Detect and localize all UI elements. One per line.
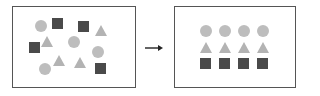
square-icon: [238, 58, 249, 69]
triangle-icon: [200, 42, 212, 53]
circle-icon: [92, 46, 104, 58]
triangle-icon: [74, 57, 86, 68]
circle-icon: [219, 25, 231, 37]
triangle-icon: [41, 36, 53, 47]
circle-icon: [68, 36, 80, 48]
after-panel: [174, 6, 296, 88]
square-icon: [78, 21, 89, 32]
square-icon: [52, 18, 63, 29]
square-icon: [95, 63, 106, 74]
triangle-icon: [53, 55, 65, 66]
triangle-icon: [95, 25, 107, 36]
square-icon: [29, 42, 40, 53]
circle-icon: [257, 25, 269, 37]
square-icon: [200, 58, 211, 69]
square-icon: [219, 58, 230, 69]
circle-icon: [238, 25, 250, 37]
circle-icon: [200, 25, 212, 37]
circle-icon: [35, 20, 47, 32]
triangle-icon: [257, 42, 269, 53]
circle-icon: [39, 63, 51, 75]
triangle-icon: [238, 42, 250, 53]
right-arrow-icon: [144, 44, 164, 52]
triangle-icon: [219, 42, 231, 53]
square-icon: [257, 58, 268, 69]
